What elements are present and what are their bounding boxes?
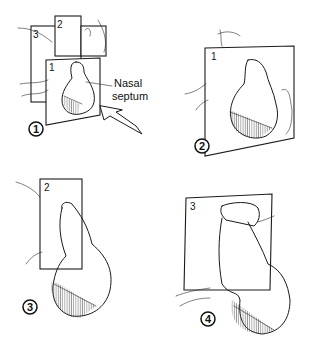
plane-3-label: 3 [33,29,39,40]
arrow-icon [100,106,142,134]
hatched-region [51,280,96,318]
step-number-3: 3 [27,301,33,313]
step-number-1: 1 [33,123,39,135]
skin-flap-line [218,32,240,36]
plane-1 [205,46,294,156]
plane-1-label: 1 [49,62,55,73]
nasal-septum-label-line2: septum [112,90,148,102]
panel-3: 2 3 [16,179,111,318]
figure-canvas: 3 2 1 Nasal septum 1 1 [0,0,313,350]
plane-1-label: 1 [211,51,217,62]
panel-1: 3 2 1 Nasal septum 1 [18,16,148,136]
tissue-line [180,298,210,306]
plane-2-back [81,26,106,56]
plane-2-label: 2 [57,19,63,30]
panel-2: 1 2 [185,30,294,156]
tissue-line [185,84,206,94]
plane-3 [184,194,272,290]
nasal-septum-label-line1: Nasal [114,77,142,89]
step-number-4: 4 [205,313,212,325]
panel-4: 3 4 [176,194,290,334]
plane-2-label: 2 [44,182,50,193]
step-number-2: 2 [199,140,205,152]
plane-3-label: 3 [190,201,196,212]
